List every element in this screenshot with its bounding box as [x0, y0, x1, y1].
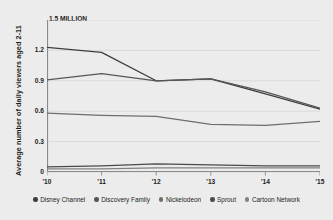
legend-label: Cartoon Network [252, 196, 300, 203]
series-line-0 [47, 47, 320, 109]
y-axis-tick-label: 0.9 [0, 77, 44, 84]
legend-marker-icon [33, 197, 38, 202]
y-axis-tick-label: 0.6 [0, 107, 44, 114]
legend-marker-icon [94, 197, 99, 202]
legend-label: Sprout [217, 196, 236, 203]
y-axis-title: Average number of daily viewers aged 2-1… [14, 21, 23, 181]
y-axis-tick-label: 1.2 [0, 46, 44, 53]
legend-marker-icon [245, 197, 250, 202]
x-axis-tick-label: '11 [97, 178, 106, 185]
legend-item-2[interactable]: Nickelodeon [159, 196, 201, 203]
legend-marker-icon [210, 197, 215, 202]
series-line-3 [47, 164, 320, 167]
legend-item-1[interactable]: Discovery Family [94, 196, 150, 203]
legend-label: Disney Channel [40, 196, 85, 203]
series-line-2 [47, 113, 320, 125]
legend-label: Discovery Family [101, 196, 150, 203]
line-chart-svg [47, 20, 320, 176]
legend-item-3[interactable]: Sprout [210, 196, 236, 203]
plot-area [47, 20, 320, 172]
chart-legend: Disney ChannelDiscovery FamilyNickelodeo… [0, 196, 333, 203]
x-axis-tick-label: '15 [316, 178, 325, 185]
legend-marker-icon [159, 197, 164, 202]
chart-figure: Average number of daily viewers aged 2-1… [0, 0, 333, 220]
series-line-4 [47, 168, 320, 169]
x-axis-tick-label: '12 [152, 178, 161, 185]
y-axis-tick-label: 0.3 [0, 138, 44, 145]
legend-label: Nickelodeon [166, 196, 201, 203]
legend-item-4[interactable]: Cartoon Network [245, 196, 300, 203]
series-line-1 [47, 74, 320, 108]
x-axis-tick-label: '13 [206, 178, 215, 185]
x-axis-tick-label: '10 [43, 178, 52, 185]
y-axis-tick-label: 0 [0, 168, 44, 175]
legend-item-0[interactable]: Disney Channel [33, 196, 85, 203]
x-axis-tick-label: '14 [261, 178, 270, 185]
